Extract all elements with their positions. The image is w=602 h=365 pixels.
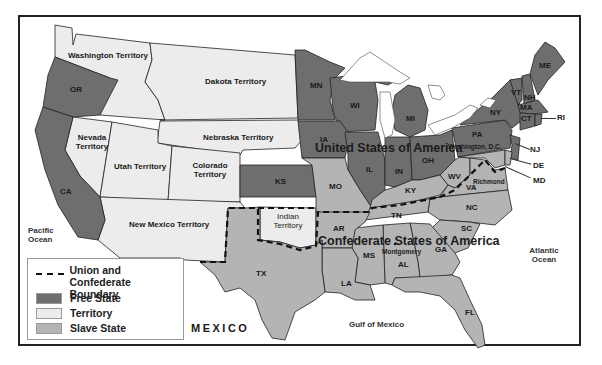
slave-state-swatch-icon xyxy=(36,323,62,334)
leader-ri xyxy=(541,118,556,119)
label-utah-territory: Utah Territory xyxy=(114,163,166,172)
legend-free-state: Free State xyxy=(70,292,121,304)
label-md: MD xyxy=(533,177,545,186)
label-ct: CT xyxy=(521,115,532,124)
label-ma: MA xyxy=(520,104,532,113)
legend-row-free-state: Free State xyxy=(36,292,121,304)
label-de: DE xyxy=(533,162,544,171)
label-ar: AR xyxy=(333,225,345,234)
label-wi: WI xyxy=(350,102,360,111)
label-sc: SC xyxy=(461,225,472,234)
label-vt: VT xyxy=(511,89,521,98)
label-tn: TN xyxy=(391,212,402,221)
label-new-mexico-territory: New Mexico Territory xyxy=(129,221,209,230)
free-state-swatch-icon xyxy=(36,293,62,304)
legend-slave-state: Slave State xyxy=(70,322,126,334)
label-or: OR xyxy=(70,86,82,95)
label-atlantic-ocean: Atlantic Ocean xyxy=(527,247,561,265)
label-ri: RI xyxy=(557,114,565,123)
label-fl: FL xyxy=(465,309,475,318)
dashed-line-icon xyxy=(36,273,64,275)
label-nj: NJ xyxy=(530,146,540,155)
label-montgomery: Montgomery xyxy=(382,248,421,255)
label-al: AL xyxy=(398,261,409,270)
label-ky: KY xyxy=(405,187,416,196)
label-wv: WV xyxy=(448,173,461,182)
legend-territory: Territory xyxy=(70,307,112,319)
label-mi: MI xyxy=(406,115,415,124)
label-nebraska-territory: Nebraska Territory xyxy=(203,134,274,143)
label-washington-territory: Washington Territory xyxy=(68,52,148,61)
label-me: ME xyxy=(539,62,551,71)
label-indian-territory: Indian Territory xyxy=(270,213,306,231)
label-la: LA xyxy=(341,280,352,289)
state-ri xyxy=(535,114,542,126)
label-tx: TX xyxy=(256,270,266,279)
label-united-states: United States of America xyxy=(315,142,463,156)
label-dakota-territory: Dakota Territory xyxy=(205,78,266,87)
richmond-dot xyxy=(492,169,494,171)
label-mo: MO xyxy=(329,183,342,192)
map-legend: Union and Confederate Boundary Free Stat… xyxy=(27,258,184,340)
territory-swatch-icon xyxy=(36,308,62,319)
label-nc: NC xyxy=(466,204,478,213)
label-ks: KS xyxy=(275,178,286,187)
label-nh: NH xyxy=(524,94,536,103)
label-il: IL xyxy=(366,166,373,175)
label-mn: MN xyxy=(310,82,322,91)
legend-row-territory: Territory xyxy=(36,307,112,319)
label-ms: MS xyxy=(363,252,375,261)
label-pacific-ocean: Pacific Ocean xyxy=(28,227,58,245)
label-oh: OH xyxy=(422,157,434,166)
label-colorado-territory: Colorado Territory xyxy=(190,162,230,180)
label-gulf-of-mexico: Gulf of Mexico xyxy=(349,321,404,330)
label-ny: NY xyxy=(490,109,501,118)
label-ca: CA xyxy=(60,188,72,197)
label-confederate-states: Confederate States of America xyxy=(318,235,500,249)
label-richmond: Richmond xyxy=(473,178,505,185)
label-pa: PA xyxy=(472,131,483,140)
legend-row-slave-state: Slave State xyxy=(36,322,126,334)
label-nevada-territory: Nevada Territory xyxy=(74,134,110,152)
label-va: VA xyxy=(466,184,477,193)
legend-boundary-line1: Union and Confederate xyxy=(70,264,183,288)
label-in: IN xyxy=(395,168,403,177)
label-mexico: MEXICO xyxy=(191,322,249,334)
